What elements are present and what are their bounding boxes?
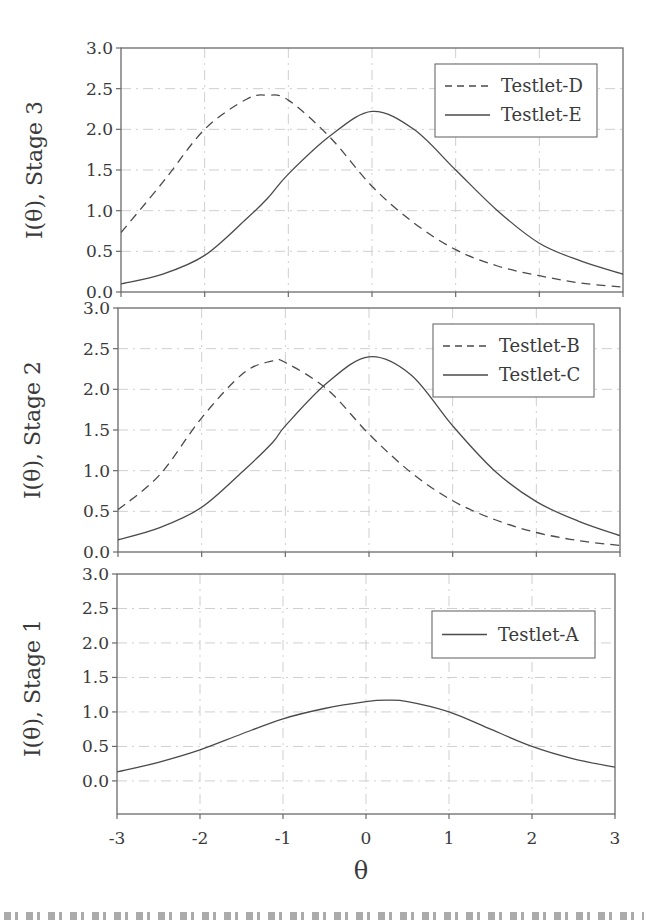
legend: Testlet-DTestlet-E — [435, 64, 597, 137]
y-axis-title: I(θ), Stage 1 — [20, 619, 45, 757]
y-tick-label: 0.0 — [82, 771, 109, 791]
y-tick-label: 3.0 — [82, 564, 109, 584]
grid-lines — [117, 574, 615, 814]
x-tick-label: 1 — [444, 828, 455, 848]
y-tick-label: 2.5 — [86, 79, 113, 99]
x-axis — [118, 552, 620, 557]
legend-label: Testlet-E — [501, 104, 582, 125]
legend-label: Testlet-D — [501, 75, 583, 96]
cropped-caption-line — [0, 908, 657, 920]
legend-label: Testlet-B — [499, 335, 580, 356]
x-axis: -3-2-10123 — [109, 814, 621, 848]
y-axis-title: I(θ), Stage 3 — [22, 101, 47, 239]
y-tick-label: 2.0 — [83, 379, 110, 399]
x-tick-label: 0 — [361, 828, 372, 848]
panel-bottom: 0.00.51.01.52.02.53.0-3-2-10123I(θ), Sta… — [20, 564, 620, 885]
x-tick-label: 2 — [527, 828, 538, 848]
x-tick-label: 3 — [610, 828, 621, 848]
y-tick-label: 2.5 — [82, 598, 109, 618]
y-tick-label: 1.0 — [83, 461, 110, 481]
y-tick-label: 1.5 — [86, 160, 113, 180]
legend: Testlet-BTestlet-C — [433, 324, 594, 397]
y-tick-label: 0.5 — [83, 501, 110, 521]
y-tick-label: 2.0 — [86, 119, 113, 139]
y-axis: 0.00.51.01.52.02.53.0 — [86, 38, 121, 302]
legend-label: Testlet-C — [499, 364, 580, 385]
x-tick-label: -3 — [109, 828, 126, 848]
x-tick-label: -2 — [192, 828, 209, 848]
y-tick-label: 1.0 — [82, 702, 109, 722]
y-tick-label: 0.5 — [86, 241, 113, 261]
y-axis-title: I(θ), Stage 2 — [20, 361, 45, 499]
y-tick-label: 1.0 — [86, 201, 113, 221]
panel-middle: 0.00.51.01.52.02.53.0I(θ), Stage 2Testle… — [20, 298, 620, 562]
y-tick-label: 0.0 — [83, 542, 110, 562]
x-axis — [121, 292, 623, 297]
y-tick-label: 3.0 — [86, 38, 113, 58]
y-tick-label: 0.5 — [82, 736, 109, 756]
panel-top: 0.00.51.01.52.02.53.0I(θ), Stage 3Testle… — [22, 38, 623, 302]
y-tick-label: 2.0 — [82, 633, 109, 653]
x-tick-label: -1 — [275, 828, 292, 848]
y-axis: 0.00.51.01.52.02.53.0 — [83, 298, 118, 562]
x-axis-title: θ — [354, 857, 368, 885]
y-tick-label: 1.5 — [82, 667, 109, 687]
y-axis: 0.00.51.01.52.02.53.0 — [82, 564, 117, 791]
legend-label: Testlet-A — [498, 624, 579, 645]
y-tick-label: 2.5 — [83, 339, 110, 359]
legend: Testlet-A — [432, 611, 595, 658]
y-tick-label: 1.5 — [83, 420, 110, 440]
y-tick-label: 3.0 — [83, 298, 110, 318]
